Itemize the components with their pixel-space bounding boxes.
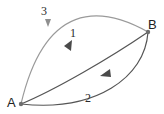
diagram-canvas: A B 1 2 3 xyxy=(0,0,164,114)
edge-1-arrowhead-icon xyxy=(64,40,72,51)
node-b-label: B xyxy=(148,18,157,31)
diagram-svg xyxy=(0,0,164,114)
edge-1-label: 1 xyxy=(70,27,76,39)
edge-3-label: 3 xyxy=(41,5,47,17)
edge-3-arrowhead-icon xyxy=(45,19,51,27)
node-a-dot[interactable] xyxy=(19,102,23,106)
node-a-label: A xyxy=(7,96,16,109)
edge-2-label: 2 xyxy=(85,92,91,104)
edge-2-arrowhead-icon xyxy=(100,69,111,77)
